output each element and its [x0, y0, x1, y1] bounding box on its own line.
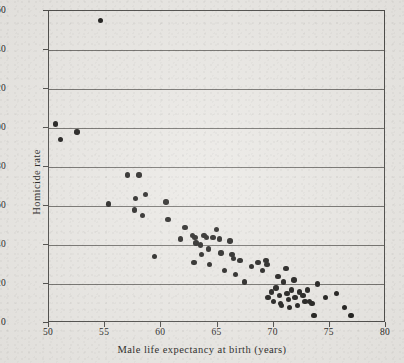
- data-point: [222, 268, 227, 273]
- gridline-y-120: [49, 89, 384, 90]
- data-point: [260, 268, 265, 273]
- data-point: [217, 236, 222, 241]
- data-point: [233, 272, 238, 277]
- data-point: [163, 199, 168, 204]
- x-tick-label-60: 60: [155, 327, 165, 337]
- data-point: [152, 254, 157, 259]
- data-point: [204, 235, 209, 240]
- data-point: [207, 262, 212, 267]
- data-point: [132, 207, 137, 212]
- data-point: [283, 266, 288, 271]
- data-point: [264, 262, 269, 267]
- data-point: [136, 172, 141, 177]
- data-point: [218, 250, 223, 255]
- data-point: [242, 279, 247, 284]
- data-point: [227, 238, 232, 243]
- gridline-y-100: [49, 128, 384, 129]
- data-point: [275, 274, 280, 279]
- data-point: [198, 242, 203, 247]
- x-tick-label-80: 80: [380, 327, 390, 337]
- data-point: [295, 303, 300, 308]
- data-point: [53, 121, 58, 126]
- data-point: [237, 258, 242, 263]
- data-point: [273, 285, 278, 290]
- data-point: [265, 295, 270, 300]
- y-tick-label-140: 140: [0, 44, 6, 54]
- data-point: [300, 293, 305, 298]
- gridline-y-60: [49, 206, 384, 207]
- data-point: [98, 18, 103, 23]
- data-point: [311, 313, 316, 318]
- x-tick-label-75: 75: [324, 327, 334, 337]
- x-tick-label-65: 65: [211, 327, 221, 337]
- data-point: [271, 299, 276, 304]
- data-point: [106, 201, 111, 206]
- data-point: [231, 256, 236, 261]
- x-tick-label-55: 55: [99, 327, 109, 337]
- data-point: [214, 227, 219, 232]
- y-tick-label-20: 20: [0, 278, 6, 288]
- gridline-y-80: [49, 167, 384, 168]
- data-point: [292, 295, 297, 300]
- data-point: [191, 260, 196, 265]
- y-tick-label-160: 160: [0, 5, 6, 15]
- data-point: [133, 196, 138, 201]
- data-point: [315, 281, 320, 286]
- y-tick-label-100: 100: [0, 122, 6, 132]
- data-point: [289, 287, 294, 292]
- scatter-chart-figure: Homicide rate 020406080100120140160 5055…: [0, 0, 404, 363]
- gridline-y-40: [49, 245, 384, 246]
- data-point: [305, 287, 310, 292]
- data-point: [140, 213, 145, 218]
- x-tick-label-50: 50: [43, 327, 53, 337]
- data-point: [249, 264, 254, 269]
- data-point: [291, 277, 296, 282]
- data-point: [286, 297, 291, 302]
- data-point: [199, 252, 204, 257]
- y-tick-label-80: 80: [0, 161, 6, 171]
- y-tick-label-0: 0: [1, 317, 6, 327]
- y-tick-label-40: 40: [0, 239, 6, 249]
- data-point: [277, 293, 282, 298]
- x-axis-title: Male life expectancy at birth (years): [0, 344, 404, 355]
- data-point: [348, 313, 353, 318]
- data-point: [279, 303, 284, 308]
- gridline-y-140: [49, 50, 384, 51]
- data-point: [255, 260, 260, 265]
- data-point: [178, 236, 183, 241]
- data-point: [323, 295, 328, 300]
- data-point: [182, 225, 187, 230]
- data-point: [206, 246, 211, 251]
- data-point: [334, 291, 339, 296]
- gridline-y-20: [49, 284, 384, 285]
- x-tick-label-70: 70: [268, 327, 278, 337]
- data-point: [309, 301, 314, 306]
- y-tick-label-60: 60: [0, 200, 6, 210]
- data-point: [342, 305, 347, 310]
- data-point: [192, 235, 197, 240]
- data-point: [287, 305, 292, 310]
- data-point: [143, 192, 148, 197]
- data-point: [58, 137, 63, 142]
- data-point: [210, 235, 215, 240]
- data-point: [74, 129, 79, 134]
- plot-area: [48, 10, 385, 322]
- y-tick-label-120: 120: [0, 83, 6, 93]
- data-point: [165, 217, 170, 222]
- y-axis-title: Homicide rate: [31, 149, 42, 215]
- data-point: [125, 172, 130, 177]
